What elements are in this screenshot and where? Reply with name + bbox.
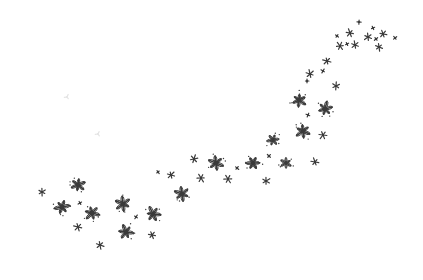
flower-center (375, 38, 377, 40)
ink-speck (84, 218, 85, 219)
ink-speck (245, 162, 246, 163)
flower-center (265, 180, 267, 182)
flower-center (339, 45, 341, 47)
flower-center (394, 37, 396, 39)
flower-center (200, 177, 202, 179)
ink-speck (225, 160, 226, 161)
ink-speck (213, 153, 214, 154)
ink-speck (318, 103, 319, 104)
flower-center (354, 44, 356, 46)
ink-speck (119, 211, 120, 212)
flower-center (121, 202, 125, 206)
flower-center (309, 73, 311, 75)
ink-speck (332, 111, 333, 112)
ink-speck (208, 167, 209, 168)
ink-speck (60, 214, 61, 215)
ink-speck (289, 102, 290, 103)
flower-center (151, 212, 155, 216)
flower-center (322, 70, 324, 72)
flower-center (358, 21, 360, 23)
flower-center (90, 211, 94, 215)
ink-speck (53, 204, 54, 205)
ink-speck (329, 115, 330, 116)
ink-speck (223, 158, 224, 159)
flower-center (79, 202, 81, 204)
flower-center (349, 32, 351, 34)
ink-speck (291, 158, 292, 159)
ink-speck (248, 156, 249, 157)
ink-speck (307, 138, 308, 139)
flower-center (170, 174, 172, 176)
flower-mark-tiny (346, 43, 349, 46)
ink-speck (159, 208, 160, 209)
flower-center (157, 171, 159, 173)
flower-center (251, 161, 255, 165)
flower-center (76, 183, 80, 187)
flower-center (322, 134, 324, 136)
flower-center (180, 192, 184, 196)
ink-speck (131, 238, 132, 239)
flower-center (271, 138, 274, 141)
ink-speck (133, 233, 134, 234)
ink-speck (74, 177, 75, 178)
flower-center (314, 161, 316, 163)
flower-center (306, 80, 308, 82)
ink-speck (293, 165, 294, 166)
flower-center (77, 226, 79, 228)
flower-center (268, 155, 270, 157)
flower-center (297, 98, 301, 102)
ink-speck (122, 194, 123, 195)
flower-center (382, 33, 384, 35)
ink-speck (246, 167, 247, 168)
ink-speck (69, 181, 70, 182)
ink-speck (130, 223, 131, 224)
flower-center (284, 161, 287, 164)
ink-speck (179, 200, 180, 201)
flower-center (60, 205, 64, 209)
ink-speck (145, 209, 146, 210)
flower-center (214, 161, 218, 165)
flower-center (301, 129, 305, 133)
ink-speck (280, 166, 281, 167)
flower-center (99, 244, 101, 246)
flower-center (335, 85, 337, 87)
ink-speck (321, 116, 322, 117)
ink-speck (305, 94, 306, 95)
ink-speck (296, 126, 297, 127)
ink-speck (266, 145, 267, 146)
flower-center (336, 35, 338, 37)
flower-scatter-illustration (0, 0, 423, 280)
flower-center (227, 178, 229, 180)
flower-center (326, 60, 328, 62)
ink-speck (98, 216, 99, 217)
flower-center (346, 43, 348, 45)
flower-center (367, 36, 369, 38)
ink-speck (159, 220, 160, 221)
flower-center (97, 133, 99, 135)
flower-center (151, 234, 153, 236)
ink-speck (87, 206, 88, 207)
ink-speck (124, 211, 125, 212)
ink-speck (70, 206, 71, 207)
flower-center (135, 216, 137, 218)
flower-center (372, 27, 374, 29)
ink-speck (299, 90, 300, 91)
ink-speck (81, 191, 82, 192)
flower-center (307, 114, 309, 116)
ink-speck (275, 133, 276, 134)
flower-center (193, 158, 195, 160)
ink-speck (300, 123, 301, 124)
flower-center (236, 167, 238, 169)
ink-speck (177, 199, 178, 200)
ink-speck (278, 164, 279, 165)
ink-speck (62, 215, 63, 216)
flower-center (323, 107, 327, 111)
ink-speck (279, 134, 280, 135)
ink-speck (115, 201, 116, 202)
ink-speck (291, 102, 292, 103)
ink-speck (296, 124, 297, 125)
ink-speck (160, 214, 161, 215)
flower-center (66, 96, 68, 98)
image-canvas (0, 0, 423, 280)
flower-center (378, 46, 380, 48)
